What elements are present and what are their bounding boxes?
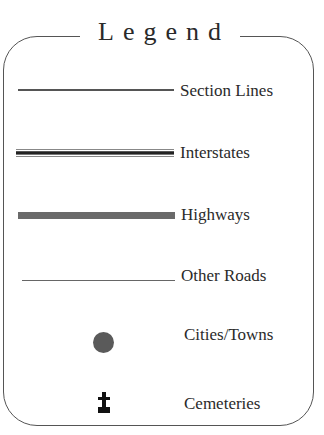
legend-item-cities-towns: Cities/Towns <box>0 325 324 355</box>
legend-title: Legend <box>90 19 230 45</box>
legend-label: Highways <box>181 206 250 223</box>
legend-title-container: Legend <box>80 14 240 50</box>
legend-label: Interstates <box>180 144 250 161</box>
highway-bar-icon <box>18 212 175 219</box>
legend-label: Section Lines <box>180 82 273 99</box>
legend-label: Cemeteries <box>184 395 260 412</box>
other-road-line-icon <box>22 280 175 281</box>
legend-label: Other Roads <box>181 267 266 284</box>
legend-label: Cities/Towns <box>184 326 273 343</box>
legend-item-interstates: Interstates <box>0 139 324 169</box>
cemetery-cross-icon <box>97 392 111 414</box>
legend-item-cemeteries: Cemeteries <box>0 390 324 420</box>
legend-item-section-lines: Section Lines <box>0 76 324 106</box>
legend-item-highways: Highways <box>0 201 324 231</box>
section-line-icon <box>18 89 174 91</box>
city-dot-icon <box>93 332 114 353</box>
interstate-line-icon <box>16 149 174 157</box>
legend-item-other-roads: Other Roads <box>0 261 324 291</box>
